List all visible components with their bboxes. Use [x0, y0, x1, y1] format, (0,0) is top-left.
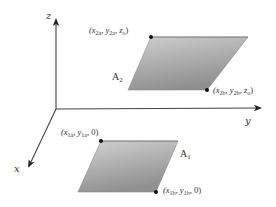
point-1b-dot [154, 190, 158, 194]
z-axis-label: z [45, 10, 52, 21]
point-2a-dot [149, 35, 153, 39]
point-1a-label: (x1a, y1a, 0) [61, 127, 98, 138]
x-axis-label: x [14, 163, 20, 174]
y-axis [56, 108, 260, 109]
y-axis-label: y [244, 115, 251, 126]
plane-a2-shape [128, 37, 248, 90]
point-2a-label: (x2a, y2a, zo) [89, 25, 129, 36]
plane-a2-label: A2 [112, 71, 123, 84]
diagram-canvas: z y x A2 (x2a, y2a, zo) (x2b, y2b, zo) A… [0, 0, 276, 207]
point-1a-dot [99, 139, 103, 143]
plane-a1: A1 (x1a, y1a, 0) (x1b, y1b, 0) [61, 127, 201, 196]
point-2b-dot [205, 88, 209, 92]
x-axis [29, 109, 56, 166]
point-2b-label: (x2b, y2b, zo) [213, 85, 253, 96]
plane-a1-label: A1 [180, 148, 191, 161]
plane-a2: A2 (x2a, y2a, zo) (x2b, y2b, zo) [89, 25, 253, 96]
point-1b-label: (x1b, y1b, 0) [163, 185, 201, 196]
